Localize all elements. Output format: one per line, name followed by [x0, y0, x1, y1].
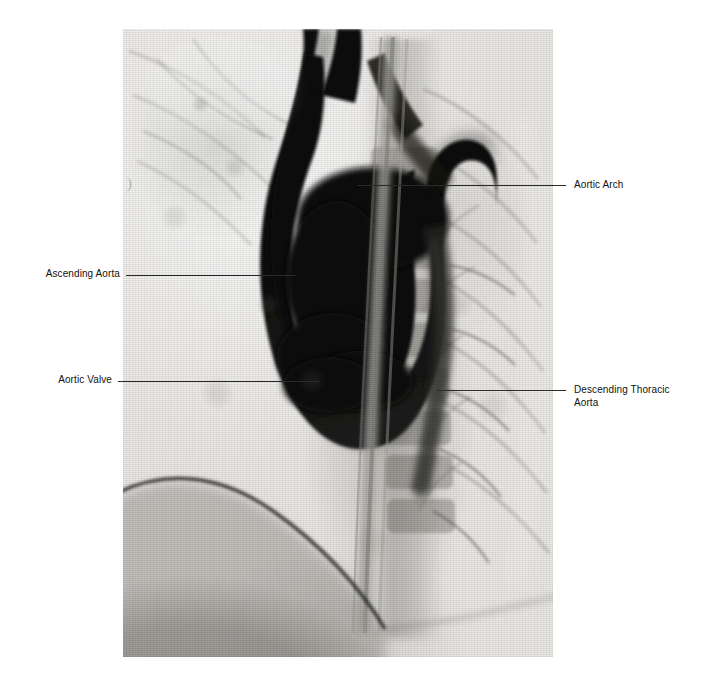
annotation-label-descending-thoracic-aorta: Descending Thoracic Aorta: [574, 383, 692, 409]
annotation-label-aortic-arch: Aortic Arch: [574, 178, 694, 191]
annotation-label-aortic-valve: Aortic Valve: [0, 373, 112, 386]
aortogram-figure: 2005-23 ) Ascending Aorta Aortic Valve A…: [0, 0, 701, 683]
leader-line-descending-thoracic-aorta: [437, 390, 566, 391]
leader-line-aortic-valve: [118, 381, 320, 382]
leader-line-aortic-arch: [357, 185, 566, 186]
film-grain-layer: [123, 29, 553, 657]
radiograph-image: 2005-23 ): [123, 29, 553, 657]
annotation-label-ascending-aorta: Ascending Aorta: [0, 267, 120, 280]
leader-line-ascending-aorta: [126, 275, 296, 276]
film-corner-mark: ): [127, 175, 132, 192]
